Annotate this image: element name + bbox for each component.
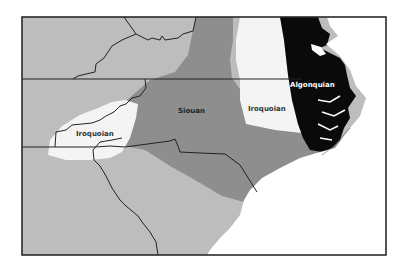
map-figure: Algonquian Iroquoian Siouan Iroquoian <box>0 0 406 263</box>
label-iroquoian-east: Iroquoian <box>248 105 286 113</box>
label-algonquian: Algonquian <box>290 81 335 89</box>
label-iroquoian-west: Iroquoian <box>76 130 114 138</box>
label-siouan: Siouan <box>178 107 205 115</box>
